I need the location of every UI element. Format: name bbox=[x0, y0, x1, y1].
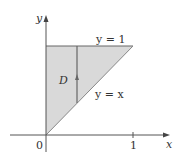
origin-label: 0 bbox=[36, 139, 43, 152]
region-label: D bbox=[58, 74, 68, 87]
x-axis-label: x bbox=[166, 138, 173, 151]
diagonal-line-label: y = x bbox=[94, 88, 124, 101]
region-diagram: y x 0 1 D y = 1 y = x bbox=[0, 0, 183, 161]
x-tick-label: 1 bbox=[130, 139, 137, 152]
y-axis-label: y bbox=[35, 12, 43, 25]
top-line-label: y = 1 bbox=[95, 33, 125, 46]
x-axis-arrow-icon bbox=[163, 133, 170, 138]
y-axis-arrow-icon bbox=[44, 15, 49, 22]
